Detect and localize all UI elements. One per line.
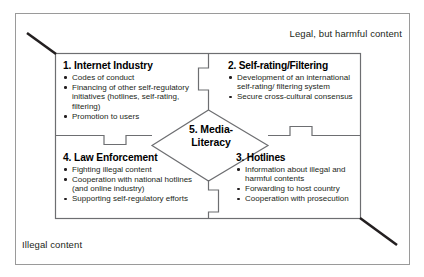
bullet-list-self-rating-filtering: Development of an international self-rat…: [228, 73, 360, 102]
list-item: Codes of conduct: [63, 73, 191, 82]
quadrant-self-rating-filtering: 2. Self-rating/Filtering Development of …: [228, 60, 360, 102]
center-label-line-1: 5. Media-: [156, 123, 266, 136]
diagram-canvas: Legal, but harmful content Illegal conte…: [0, 0, 424, 277]
list-item: Promotion to users: [63, 112, 191, 121]
quadrant-title-internet-industry: 1. Internet Industry: [63, 60, 191, 71]
quadrant-title-self-rating-filtering: 2. Self-rating/Filtering: [228, 60, 360, 71]
outer-label-illegal-content: Illegal content: [22, 239, 82, 250]
list-item: Cooperation with prosecution: [236, 194, 364, 203]
list-item: Information about illegal and harmful co…: [236, 165, 364, 184]
center-diamond-label: 5. Media- Literacy: [156, 123, 266, 148]
list-item: Development of an international self-rat…: [228, 73, 360, 92]
list-item: Forwarding to host country: [236, 184, 364, 193]
quadrant-internet-industry: 1. Internet Industry Codes of conduct Fi…: [63, 60, 191, 122]
quadrant-title-law-enforcement: 4. Law Enforcement: [63, 152, 198, 163]
list-item: Supporting self-regulatory efforts: [63, 194, 198, 203]
diagram-text-layer: Legal, but harmful content Illegal conte…: [0, 0, 424, 277]
bullet-list-hotlines: Information about illegal and harmful co…: [236, 165, 364, 204]
quadrant-hotlines: 3. Hotlines Information about illegal an…: [236, 152, 364, 204]
center-label-line-2: Literacy: [156, 136, 266, 149]
quadrant-law-enforcement: 4. Law Enforcement Fighting illegal cont…: [63, 152, 198, 204]
bullet-list-internet-industry: Codes of conduct Financing of other self…: [63, 73, 191, 121]
list-item: Fighting illegal content: [63, 165, 198, 174]
list-item: Secure cross-cultural consensus: [228, 92, 360, 101]
bullet-list-law-enforcement: Fighting illegal content Cooperation wit…: [63, 165, 198, 204]
list-item: Cooperation with national hotlines (and …: [63, 175, 198, 194]
outer-label-legal-but-harmful: Legal, but harmful content: [290, 28, 402, 39]
list-item: Financing of other self-regulatory initi…: [63, 83, 191, 111]
quadrant-title-hotlines: 3. Hotlines: [236, 152, 364, 163]
